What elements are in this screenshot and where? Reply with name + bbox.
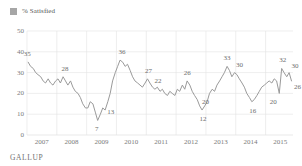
y-axis-tick-label: 0 (21, 132, 25, 139)
data-point-label: 7 (95, 126, 99, 133)
y-axis-tick-label: 10 (17, 111, 24, 118)
y-axis: 01020304050 (0, 31, 27, 135)
x-axis-tick-label: 2012 (184, 139, 198, 146)
square-swatch-icon (10, 8, 17, 15)
data-point-label: 20 (270, 99, 277, 106)
y-axis-tick-label: 20 (17, 90, 24, 97)
data-point-label: 13 (107, 108, 114, 115)
legend-label: % Satisfied (22, 7, 55, 15)
data-point-label: 12 (200, 116, 207, 123)
x-axis-tick-label: 2009 (94, 139, 108, 146)
data-point-label: 28 (62, 65, 69, 72)
data-point-label: 30 (236, 61, 243, 68)
data-point-label: 30 (292, 62, 299, 69)
x-axis-tick-label: 2013 (214, 139, 228, 146)
x-axis-tick-label: 2010 (124, 139, 138, 146)
x-axis-tick-label: 2015 (273, 139, 287, 146)
x-axis: 200720082009201020112012201320142015 (27, 139, 293, 151)
data-point-label: 26 (294, 83, 301, 90)
data-point-label: 26 (184, 69, 191, 76)
data-point-label: 22 (154, 78, 161, 85)
gallup-brand: GALLUP (10, 153, 43, 162)
data-point-label: 20 (202, 99, 209, 106)
gallup-line-chart: % Satisfied 01020304050 2007200820092010… (0, 0, 302, 166)
chart-legend: % Satisfied (10, 7, 55, 15)
data-point-label: 32 (279, 57, 286, 64)
x-axis-tick-label: 2007 (35, 139, 49, 146)
data-point-label: 36 (119, 49, 126, 56)
data-point-label: 27 (145, 67, 152, 74)
x-axis-tick-label: 2008 (65, 139, 79, 146)
y-axis-tick-label: 30 (17, 69, 24, 76)
y-axis-tick-label: 50 (17, 28, 24, 35)
x-axis-tick-label: 2011 (154, 139, 168, 146)
data-point-label: 16 (249, 107, 256, 114)
data-point-label: 33 (224, 55, 231, 62)
data-point-label: 35 (24, 51, 31, 58)
x-axis-tick-label: 2014 (244, 139, 258, 146)
